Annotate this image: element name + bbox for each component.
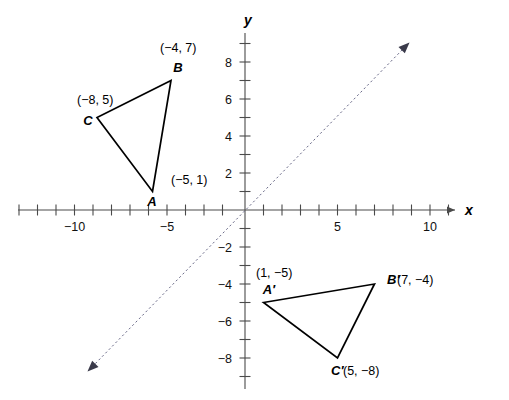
vertex-coord-c-prime: (5, −8): [343, 364, 379, 378]
coordinate-plane-figure: x y −10 −5 5 10 8 6 4 2 −2 −4 −6 −8 A (: [0, 0, 509, 400]
dashed-line-y-equals-x: [92, 47, 405, 367]
x-axis-label: x: [464, 202, 474, 218]
x-tick-label-neg10: −10: [64, 220, 85, 234]
vertex-coord-b-prime: (7, −4): [397, 273, 433, 287]
vertex-coord-a-prime: (1, −5): [256, 266, 292, 280]
x-tick-label-neg5: −5: [160, 220, 174, 234]
triangle-a-prime-b-prime-c-prime: [264, 284, 375, 358]
vertex-label-b: B: [173, 60, 182, 75]
x-axis: [18, 207, 455, 214]
y-tick-label-neg4: −4: [218, 278, 232, 292]
vertex-label-c: C: [83, 113, 93, 128]
y-tick-label-neg8: −8: [218, 352, 232, 366]
y-tick-label-8: 8: [225, 56, 232, 70]
y-tick-label-2: 2: [225, 167, 232, 181]
x-tick-label-pos5: 5: [334, 220, 341, 234]
triangle-a-prime-b-prime-c-prime-outline: [264, 284, 375, 358]
y-tick-label-4: 4: [225, 130, 232, 144]
y-axis-label: y: [243, 12, 253, 28]
line-of-reflection: [88, 43, 410, 372]
vertex-coord-a: (−5, 1): [171, 173, 207, 187]
y-tick-label-neg6: −6: [218, 315, 232, 329]
y-tick-label-6: 6: [225, 93, 232, 107]
dashed-line-arrow-up-icon: [399, 43, 410, 54]
vertex-coord-c: (−8, 5): [77, 93, 113, 107]
vertex-label-a: A: [146, 194, 156, 209]
x-tick-label-pos10: 10: [423, 220, 437, 234]
vertex-label-a-prime: A′: [262, 282, 276, 297]
y-tick-label-neg2: −2: [218, 241, 232, 255]
vertex-coord-b: (−4, 7): [160, 41, 196, 55]
graph-canvas: x y −10 −5 5 10 8 6 4 2 −2 −4 −6 −8 A (: [0, 0, 509, 400]
